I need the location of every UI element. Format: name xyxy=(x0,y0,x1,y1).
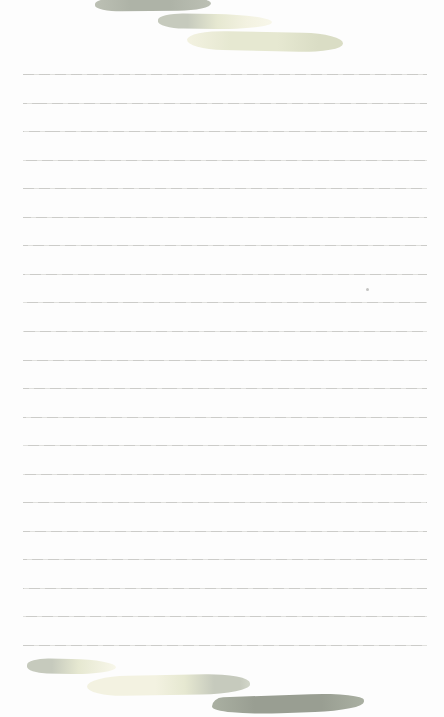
ruled-line xyxy=(23,302,427,303)
ruled-line xyxy=(23,74,427,75)
ruled-line xyxy=(23,131,427,132)
ruled-line xyxy=(23,588,427,589)
ruled-line xyxy=(23,245,427,246)
ruled-line xyxy=(23,559,427,560)
brush-stroke-top-pale-green xyxy=(187,30,343,52)
ruled-line xyxy=(23,531,427,532)
ruled-line xyxy=(23,388,427,389)
ruled-line xyxy=(23,502,427,503)
ruled-line xyxy=(23,645,427,646)
brush-stroke-bottom-olive xyxy=(212,692,365,715)
ruled-line xyxy=(23,103,427,104)
ink-speck xyxy=(366,288,369,291)
ruled-lines xyxy=(0,0,444,717)
ruled-line xyxy=(23,331,427,332)
ruled-line xyxy=(23,474,427,475)
ruled-line xyxy=(23,445,427,446)
ruled-line xyxy=(23,160,427,161)
ruled-line xyxy=(23,360,427,361)
ruled-line xyxy=(23,217,427,218)
brush-stroke-top-olive xyxy=(95,0,211,12)
ruled-line xyxy=(23,616,427,617)
brush-stroke-bottom-pale-sage xyxy=(87,674,250,697)
brush-stroke-top-sage-fade xyxy=(158,13,272,30)
ruled-line xyxy=(23,274,427,275)
ruled-line xyxy=(23,188,427,189)
note-paper xyxy=(0,0,444,717)
ruled-line xyxy=(23,417,427,418)
brush-stroke-bottom-sage-fade xyxy=(27,658,116,675)
